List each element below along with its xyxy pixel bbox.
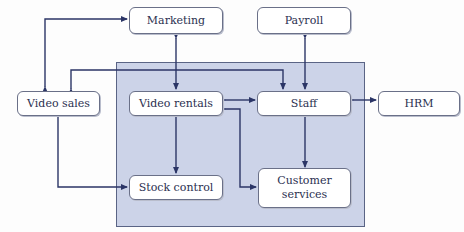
- node-label: Customer services: [277, 174, 332, 202]
- node-label: Marketing: [147, 14, 205, 28]
- node-marketing: Marketing: [129, 7, 223, 34]
- node-video-sales: Video sales: [17, 91, 100, 116]
- edge-videorentals-customerservices: [225, 109, 256, 187]
- node-label: Video rentals: [139, 97, 213, 111]
- node-payroll: Payroll: [257, 7, 351, 34]
- node-label: Video sales: [27, 97, 90, 111]
- edge-videosales-stockcontrol: [58, 112, 127, 187]
- diagram-canvas: Marketing Payroll Video sales Video rent…: [0, 0, 464, 232]
- node-label: Payroll: [285, 14, 324, 28]
- node-customer-services: Customer services: [258, 168, 351, 208]
- node-label: HRM: [404, 97, 433, 111]
- node-stock-control: Stock control: [129, 175, 223, 200]
- edge-videosales-marketing: [45, 19, 127, 87]
- node-video-rentals: Video rentals: [129, 91, 223, 116]
- node-staff: Staff: [257, 91, 351, 116]
- node-label: Staff: [291, 97, 317, 111]
- edge-staff-videosales: [71, 70, 283, 89]
- node-hrm: HRM: [378, 91, 460, 116]
- node-label: Stock control: [139, 181, 214, 195]
- connector-lines: [0, 0, 464, 232]
